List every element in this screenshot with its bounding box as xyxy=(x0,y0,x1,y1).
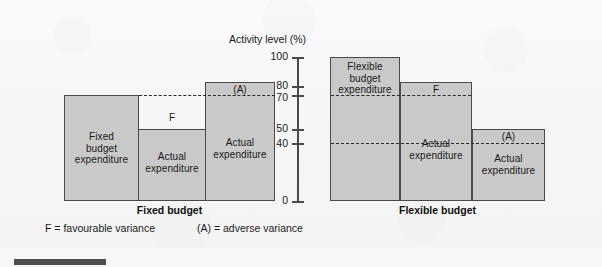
axis-tick-label-70: 70 xyxy=(258,92,288,103)
axis-tick-40 xyxy=(292,143,304,145)
flexible-bar-1-label-line1: Flexible xyxy=(326,61,404,73)
axis-tick-100 xyxy=(292,57,304,59)
bottom-edge-strip xyxy=(14,259,106,265)
flexible-bar-1-label: Flexible budget expenditure xyxy=(326,61,404,96)
flexible-bar-3-label: Actual expenditure xyxy=(472,153,545,176)
axis-title: Activity level (%) xyxy=(229,33,306,45)
axis-tick-label-50: 50 xyxy=(258,123,288,134)
fixed-budget-caption: Fixed budget xyxy=(64,204,275,216)
fixed-bar-2-label-line2: expenditure xyxy=(138,163,206,175)
flexible-bar-3-label-line2: expenditure xyxy=(472,165,545,177)
flexible-bar-3-label-line1: Actual xyxy=(472,153,545,165)
flexible-bar-2-label: Actual expenditure xyxy=(400,138,472,161)
axis-tick-50 xyxy=(292,129,304,131)
axis-tick-label-40: 40 xyxy=(258,138,288,149)
flexible-budget-caption: Flexible budget xyxy=(330,204,545,216)
flexible-bar-1-label-line2: budget xyxy=(326,73,404,85)
axis-tick-70 xyxy=(292,95,304,97)
axis-tick-0 xyxy=(292,201,304,203)
axis-tick-label-100: 100 xyxy=(258,51,288,62)
flexible-adverse-variance-label: (A) xyxy=(472,131,545,142)
fixed-bar-1-label: Fixed budget expenditure xyxy=(64,131,139,166)
legend-favourable-variance: F = favourable variance xyxy=(45,222,155,234)
fixed-bar-2-label: Actual expenditure xyxy=(138,151,206,174)
fixed-bar-2-label-line1: Actual xyxy=(138,151,206,163)
fixed-bar-3-label-line2: expenditure xyxy=(205,149,275,161)
flexible-bar-2-label-line2: expenditure xyxy=(400,150,472,162)
flexible-favourable-variance-label: F xyxy=(400,84,472,95)
fixed-favourable-variance-label: F xyxy=(138,112,206,123)
fixed-bar-1-label-line3: expenditure xyxy=(64,154,139,166)
fixed-bar-1-label-line1: Fixed xyxy=(64,131,139,143)
flexible-reference-line-70 xyxy=(331,95,471,96)
fixed-reference-line-70 xyxy=(139,95,275,96)
legend-adverse-variance: (A) = adverse variance xyxy=(197,222,303,234)
fixed-bar-1-label-line2: budget xyxy=(64,143,139,155)
axis-tick-80 xyxy=(292,86,304,88)
budget-variance-figure: Fixed budget expenditure Actual expendit… xyxy=(0,0,602,267)
flexible-reference-line-40 xyxy=(331,143,544,144)
flexible-bar-1-label-line3: expenditure xyxy=(326,84,404,96)
axis-tick-label-0: 0 xyxy=(258,195,288,206)
axis-tick-label-80: 80 xyxy=(258,80,288,91)
